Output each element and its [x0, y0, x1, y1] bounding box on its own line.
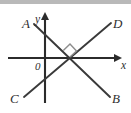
- x-axis-label: x: [120, 59, 127, 71]
- label-d: D: [112, 16, 123, 31]
- label-b: B: [112, 91, 120, 106]
- label-a: A: [21, 16, 30, 31]
- y-axis-arrow-icon: [41, 12, 49, 20]
- figure-canvas: A D C B x y 0: [0, 0, 131, 113]
- geometry-figure: A D C B x y 0: [0, 0, 131, 113]
- origin-label: 0: [35, 60, 41, 72]
- y-axis-label: y: [34, 13, 41, 26]
- label-c: C: [10, 91, 19, 106]
